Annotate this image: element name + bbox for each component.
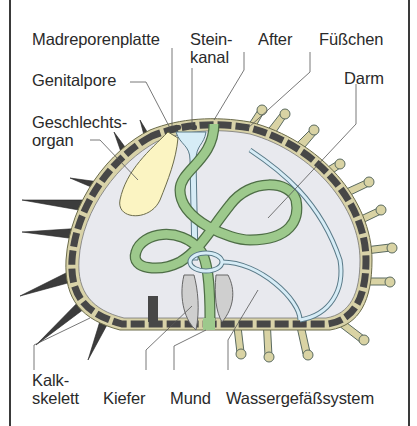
label-geschlechtsorgan-line1: Geschlechts- <box>32 113 127 131</box>
label-madreporenplatte: Madreporenplatte <box>32 30 160 48</box>
label-genitalpore: Genitalpore <box>32 71 116 89</box>
label-mund: Mund <box>170 389 211 407</box>
label-kalkskelett-line1: Kalk- <box>32 371 69 389</box>
label-fuesschen: Füßchen <box>319 30 383 48</box>
label-darm: Darm <box>344 69 384 87</box>
label-after: After <box>258 30 292 48</box>
label-geschlechtsorgan-line2: organ <box>32 131 74 149</box>
label-kalkskelett-line2: skelett <box>32 389 79 407</box>
label-steinkanal-line2: kanal <box>190 48 229 66</box>
label-wassergefaesssystem: Wassergefäßsystem <box>226 389 374 407</box>
mouth <box>203 318 215 330</box>
label-kiefer: Kiefer <box>103 389 146 407</box>
label-steinkanal-line1: Stein- <box>190 30 233 48</box>
madreporite <box>175 125 197 130</box>
